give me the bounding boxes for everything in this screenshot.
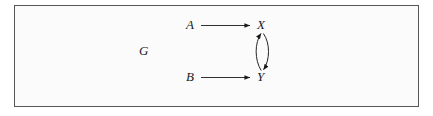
graph-name-label: G (139, 44, 148, 57)
figure-border-frame (14, 5, 419, 107)
figure-root: A X B Y G (0, 0, 433, 116)
node-label-a: A (186, 18, 194, 31)
node-label-y: Y (257, 70, 264, 83)
node-label-b: B (186, 70, 194, 83)
node-label-x: X (257, 18, 265, 31)
